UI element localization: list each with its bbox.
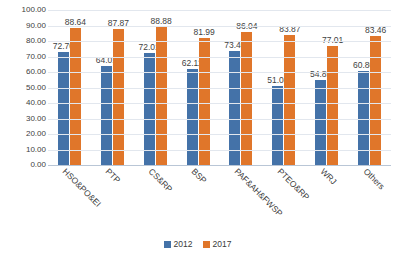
bar-2017-PTEO&RP[interactable]: 83.87 <box>284 35 295 165</box>
gridline <box>48 26 391 27</box>
bar-2017-PTP[interactable]: 87.87 <box>113 29 124 165</box>
legend-item-2017[interactable]: 2017 <box>203 240 232 249</box>
x-axis-category-slot: PTEO&RP <box>262 167 305 227</box>
y-axis-tick-label: 60.00 <box>26 68 46 76</box>
bar-2012-HSO&PO&EI[interactable]: 72.70 <box>58 52 69 165</box>
legend-swatch-icon <box>203 241 210 248</box>
x-axis-label-PTP: PTP <box>104 167 122 185</box>
gridline <box>48 72 391 73</box>
chart-legend: 20122017 <box>0 240 395 249</box>
x-axis-category-slot: Others <box>348 167 391 227</box>
x-axis-category-slot: BSP <box>177 167 220 227</box>
x-axis-label-Others: Others <box>361 167 385 191</box>
y-axis-tick-label: 0.00 <box>30 161 46 169</box>
gridline <box>48 88 391 89</box>
bar-chart: 100.0090.0080.0070.0060.0050.0040.0030.0… <box>0 0 395 257</box>
y-axis-tick-label: 40.00 <box>26 99 46 107</box>
plot-area: 72.7088.6464.0187.8772.0188.8862.1181.99… <box>48 10 391 166</box>
x-axis-label-BSP: BSP <box>190 167 208 185</box>
gridline <box>48 10 391 11</box>
gridline <box>48 150 391 151</box>
x-axis-category-slot: PTP <box>91 167 134 227</box>
x-axis-category-slot: HSO&PO&EI <box>48 167 91 227</box>
gridline <box>48 57 391 58</box>
x-axis-category-slot: PAF&AH&FWSP <box>220 167 263 227</box>
x-axis-category-labels: HSO&PO&EIPTPCS&RPBSPPAF&AH&FWSPPTEO&RPWR… <box>48 167 391 227</box>
y-axis-tick-label: 10.00 <box>26 146 46 154</box>
bar-2017-Others[interactable]: 83.46 <box>370 36 381 165</box>
bar-2017-WRJ[interactable]: 77.01 <box>327 46 338 165</box>
x-axis-category-slot: WRJ <box>305 167 348 227</box>
x-axis-label-CS&RP: CS&RP <box>147 167 174 194</box>
x-axis-category-slot: CS&RP <box>134 167 177 227</box>
legend-swatch-icon <box>164 241 171 248</box>
bar-2012-PAF&AH&FWSP[interactable]: 73.40 <box>229 51 240 165</box>
gridline <box>48 103 391 104</box>
bar-2012-BSP[interactable]: 62.11 <box>187 69 198 165</box>
y-axis: 100.0090.0080.0070.0060.0050.0040.0030.0… <box>8 10 46 165</box>
gridline <box>48 134 391 135</box>
bar-2017-CS&RP[interactable]: 88.88 <box>156 27 167 165</box>
bar-value-label: 81.99 <box>193 28 214 37</box>
bar-2012-PTEO&RP[interactable]: 51.08 <box>272 86 283 165</box>
y-axis-tick-label: 90.00 <box>26 22 46 30</box>
y-axis-tick-label: 30.00 <box>26 115 46 123</box>
bar-value-label: 83.46 <box>365 26 386 35</box>
y-axis-tick-label: 20.00 <box>26 130 46 138</box>
y-axis-tick-label: 100.00 <box>22 6 46 14</box>
gridline <box>48 119 391 120</box>
bar-2012-WRJ[interactable]: 54.85 <box>315 80 326 165</box>
legend-label: 2012 <box>174 240 193 249</box>
gridline <box>48 41 391 42</box>
y-axis-tick-label: 70.00 <box>26 53 46 61</box>
y-axis-tick-label: 50.00 <box>26 84 46 92</box>
legend-label: 2017 <box>213 240 232 249</box>
bar-2017-HSO&PO&EI[interactable]: 88.64 <box>70 28 81 165</box>
chart-plot-wrapper: 100.0090.0080.0070.0060.0050.0040.0030.0… <box>0 0 395 257</box>
y-axis-tick-label: 80.00 <box>26 37 46 45</box>
legend-item-2012[interactable]: 2012 <box>164 240 193 249</box>
bar-2017-PAF&AH&FWSP[interactable]: 86.04 <box>241 32 252 165</box>
bar-2012-CS&RP[interactable]: 72.01 <box>144 53 155 165</box>
x-axis-label-WRJ: WRJ <box>318 167 337 186</box>
